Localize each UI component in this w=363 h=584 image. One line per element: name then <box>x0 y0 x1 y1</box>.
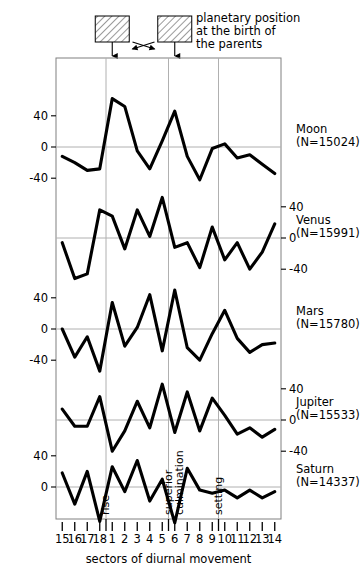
series-label-mars: Mars <box>296 304 324 318</box>
y-tick-label: 40 <box>289 382 304 396</box>
y-tick-label: 40 <box>33 291 48 305</box>
y-tick-label: -40 <box>289 262 308 276</box>
series-count-moon: (N=15024) <box>296 135 360 149</box>
y-tick-label: 0 <box>41 480 48 494</box>
y-tick-label: 40 <box>289 200 304 214</box>
series-labels: Moon(N=15024)Venus(N=15991)Mars(N=15780)… <box>295 122 360 489</box>
y-tick-label: -40 <box>29 353 48 367</box>
series-count-saturn: (N=14337) <box>296 475 360 489</box>
x-tick-label: 4 <box>146 532 153 546</box>
x-tick-label: 6 <box>171 532 178 546</box>
y-tick-label: -40 <box>29 171 48 185</box>
top-annotation: planetary positionat the birth ofthe par… <box>95 11 300 56</box>
y-tick-label: 0 <box>41 322 48 336</box>
y-tick-label: 0 <box>41 140 48 154</box>
x-axis-label: sectors of diurnal movement <box>86 552 252 566</box>
annotation-line-1: planetary position <box>196 11 300 25</box>
x-tick-label: 2 <box>121 532 128 546</box>
chart-figure: planetary positionat the birth ofthe par… <box>0 0 363 584</box>
x-tick-label: 3 <box>134 532 141 546</box>
x-axis: 151617181234567891011121314sectors of di… <box>55 519 282 566</box>
series-label-jupiter: Jupiter <box>295 395 334 409</box>
annotation-line-3: the parents <box>196 37 262 51</box>
x-tick-label: 5 <box>159 532 166 546</box>
series-label-saturn: Saturn <box>296 462 334 476</box>
series-count-venus: (N=15991) <box>296 226 360 240</box>
y-tick-label: 40 <box>33 449 48 463</box>
planet-position-marker-box-2 <box>158 16 192 42</box>
x-tick-label: 9 <box>209 532 216 546</box>
series-label-venus: Venus <box>296 213 331 227</box>
x-tick-label: 1 <box>109 532 116 546</box>
diurnal-sector-chart: planetary positionat the birth ofthe par… <box>0 0 363 584</box>
gridline-annotation-setting: setting <box>212 477 225 515</box>
annotation-line-2: at the birth of <box>196 24 276 38</box>
x-tick-label: 8 <box>196 532 203 546</box>
planet-position-marker-box-1 <box>95 16 129 42</box>
y-tick-label: 40 <box>33 109 48 123</box>
x-tick-label: 7 <box>184 532 191 546</box>
gridline-annotations: risesuperiorculminationsetting <box>99 450 225 515</box>
x-tick-label: 14 <box>267 532 282 546</box>
y-tick-label: -40 <box>289 444 308 458</box>
gridline-annotation-rise: rise <box>99 495 112 515</box>
series-count-mars: (N=15780) <box>296 317 360 331</box>
series-count-jupiter: (N=15533) <box>296 408 360 422</box>
x-tick-label: 18 <box>92 532 107 546</box>
gridline-annotation-superior-culmination: culmination <box>173 450 186 515</box>
series-label-moon: Moon <box>296 122 327 136</box>
